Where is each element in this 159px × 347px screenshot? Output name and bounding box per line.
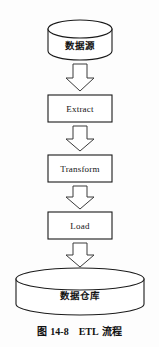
etl-flow-diagram: 数据源 Extract Transform Load (0, 0, 159, 320)
node-extract: Extract (48, 95, 112, 122)
data-source-label: 数据源 (64, 40, 95, 51)
down-arrow-icon (66, 243, 94, 267)
arrow-load-to-warehouse (66, 243, 94, 267)
caption-prefix: 图 (37, 326, 47, 337)
arrow-extract-to-transform (66, 126, 94, 151)
node-load: Load (48, 212, 112, 239)
node-data-warehouse: 数据仓库 (16, 268, 144, 315)
arrow-transform-to-load (66, 186, 94, 209)
caption-suffix: 流程 (102, 326, 122, 337)
extract-label: Extract (66, 104, 94, 114)
node-data-source: 数据源 (48, 20, 112, 60)
data-source-cylinder-top (48, 20, 112, 38)
figure-caption: 图 14-8 ETL 流程 (0, 325, 159, 339)
down-arrow-icon (66, 126, 94, 151)
data-warehouse-label: 数据仓库 (59, 290, 100, 301)
down-arrow-icon (66, 64, 94, 91)
figure-container: 数据源 Extract Transform Load (0, 0, 159, 347)
load-label: Load (70, 221, 90, 231)
data-warehouse-cylinder-top (16, 268, 144, 290)
node-transform: Transform (48, 155, 112, 182)
transform-label: Transform (60, 164, 99, 174)
caption-tech: ETL (79, 326, 99, 337)
caption-number: 14-8 (50, 326, 68, 337)
down-arrow-icon (66, 186, 94, 209)
arrow-source-to-extract (66, 64, 94, 91)
